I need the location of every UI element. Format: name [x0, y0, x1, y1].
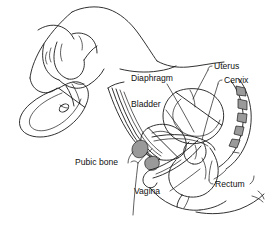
leader-uterus: [193, 70, 208, 99]
label-pubic-bone: Pubic bone: [75, 157, 118, 167]
anatomical-illustration: Diaphragm Uterus Cervix Bladder Pubic bo…: [0, 0, 266, 228]
leader-bladder: [166, 110, 183, 133]
label-diaphragm: Diaphragm: [131, 73, 173, 83]
label-rectum: Rectum: [215, 179, 245, 189]
leader-rectum-left2: [209, 161, 212, 180]
diaphragm-insertion-figure: Diaphragm Uterus Cervix Bladder Pubic bo…: [0, 0, 266, 228]
leader-cervix-hook: [218, 80, 222, 84]
leader-pubicbone: [131, 161, 138, 163]
leader-rectum-left: [209, 180, 213, 184]
label-vagina: Vagina: [134, 186, 160, 196]
label-bladder: Bladder: [131, 99, 161, 109]
sacrum: [214, 79, 251, 179]
label-uterus: Uterus: [214, 61, 239, 71]
leader-diaphragm: [167, 84, 194, 132]
leader-vagina: [170, 169, 200, 191]
uterus: [163, 89, 224, 144]
leader-uterus-hook: [208, 66, 212, 70]
label-group: Diaphragm Uterus Cervix Bladder Pubic bo…: [75, 61, 249, 196]
leader-rectum-right: [250, 176, 254, 184]
hand-illustration: [19, 7, 224, 137]
label-cervix: Cervix: [224, 75, 249, 85]
thigh-contour: [150, 188, 264, 214]
